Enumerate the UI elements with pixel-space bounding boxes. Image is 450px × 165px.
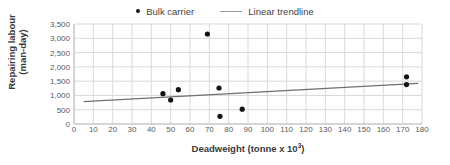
x-tick-label: 20 — [108, 125, 117, 134]
data-point — [168, 97, 173, 102]
data-point — [240, 107, 245, 112]
x-axis-tick-labels: 0102030405060708090100110120130140150160… — [0, 125, 450, 137]
data-point — [205, 31, 210, 36]
x-tick-label: 90 — [244, 125, 253, 134]
x-tick-label: 140 — [338, 125, 351, 134]
data-point — [176, 87, 181, 92]
x-tick-label: 40 — [147, 125, 156, 134]
x-tick-label: 130 — [319, 125, 332, 134]
x-tick-label: 110 — [280, 125, 293, 134]
x-tick-label: 80 — [224, 125, 233, 134]
x-tick-label: 180 — [415, 125, 428, 134]
x-tick-label: 170 — [396, 125, 409, 134]
x-tick-label: 50 — [166, 125, 175, 134]
plot-area — [0, 0, 450, 165]
data-point — [216, 85, 221, 90]
x-tick-label: 30 — [128, 125, 137, 134]
x-axis-title: Deadweight (tonne x 103) — [74, 143, 422, 154]
x-tick-label: 60 — [186, 125, 195, 134]
data-point — [404, 74, 409, 79]
gridlines — [74, 24, 422, 124]
data-point — [160, 91, 165, 96]
x-tick-label: 150 — [357, 125, 370, 134]
x-tick-label: 0 — [72, 125, 76, 134]
scatter-chart: Bulk carrier Linear trendline Repairing … — [0, 0, 450, 165]
x-tick-label: 160 — [377, 125, 390, 134]
x-tick-label: 10 — [89, 125, 98, 134]
data-point — [217, 114, 222, 119]
scatter-series-bulk-carrier — [160, 31, 409, 118]
x-tick-label: 120 — [299, 125, 312, 134]
data-point — [404, 82, 409, 87]
trendline-series — [84, 83, 418, 101]
x-tick-label: 100 — [261, 125, 274, 134]
x-tick-label: 70 — [205, 125, 214, 134]
